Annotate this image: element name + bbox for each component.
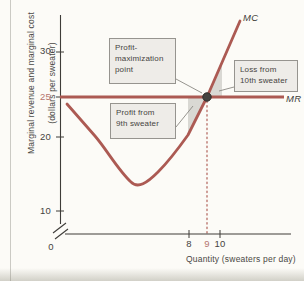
y-tick-label: 10	[29, 205, 51, 216]
x-tick-label: 10	[212, 238, 228, 249]
y-tick-label: 30	[29, 45, 51, 56]
mc-curve-label: MC	[243, 12, 258, 23]
profit-max-pointer-line	[176, 79, 202, 93]
page-shadow	[0, 268, 304, 281]
y-tick-label: 25	[29, 91, 51, 102]
x-tick-label: 8	[181, 238, 197, 249]
textbook-figure: Marginal revenue and marginal cost (doll…	[0, 0, 304, 281]
profit-maximization-dot	[203, 93, 211, 101]
y-tick-label: 20	[29, 131, 51, 142]
x-axis-title: Quantity (sweaters per day)	[186, 254, 302, 264]
loss-callout: Loss from 10th sweater	[234, 60, 298, 92]
origin-label: 0	[44, 241, 58, 252]
profit-callout: Profit from 9th sweater	[110, 103, 176, 139]
profit-maximization-callout: Profit- maximization point	[109, 38, 176, 84]
mr-curve-label: MR	[286, 93, 301, 104]
